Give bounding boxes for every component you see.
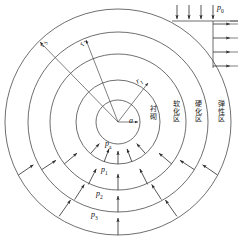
arrow-ring-pa bbox=[91, 144, 145, 164]
zone-elastic-label: 弹性区 bbox=[217, 101, 226, 124]
pressure-pa-label: pa bbox=[105, 139, 111, 150]
far-field-top-arrows bbox=[177, 5, 213, 19]
far-field-tick-marks bbox=[230, 21, 238, 66]
radius-lines bbox=[40, 40, 148, 122]
tunnel-zone-diagram: a r1 r2 r3 pa p1 p2 p3 p0 衬砌 软化区 硬化区 弹性区 bbox=[0, 0, 238, 243]
pressure-p0-label: p0 bbox=[217, 3, 224, 14]
radius-line-r1 bbox=[118, 83, 148, 122]
zone-softening-label: 软化区 bbox=[172, 101, 181, 124]
zone-lining-label: 衬砌 bbox=[149, 106, 158, 121]
zone-hardening-label: 硬化区 bbox=[194, 101, 203, 124]
far-field-side-arrows bbox=[213, 24, 230, 66]
pressure-p1-label: p1 bbox=[101, 165, 108, 176]
radius-line-r2 bbox=[86, 40, 118, 122]
pressure-p2-label: p2 bbox=[96, 189, 103, 200]
pressure-p3-label: p3 bbox=[91, 210, 98, 221]
radius-a-label: a bbox=[129, 116, 133, 125]
far-field-load-p0 bbox=[172, 21, 238, 68]
